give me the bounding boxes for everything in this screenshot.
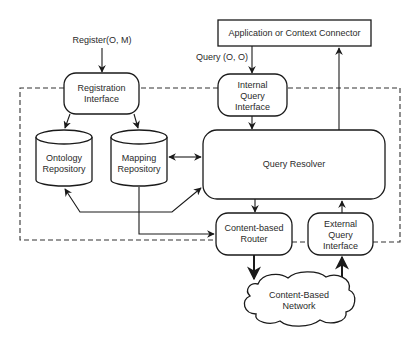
mapping-repository-label-1: Mapping — [122, 153, 157, 163]
registration-interface-label-2: Interface — [84, 94, 119, 104]
external-query-interface-label-1: External — [324, 219, 357, 229]
internal-query-interface-node[interactable]: Internal Query Interface — [218, 74, 287, 116]
application-connector-node[interactable]: Application or Context Connector — [218, 20, 371, 46]
query-resolver-node[interactable]: Query Resolver — [203, 130, 385, 199]
internal-query-interface-label-2: Query — [240, 91, 265, 101]
internal-query-interface-label-3: Interface — [235, 102, 270, 112]
content-based-network-node[interactable]: Content-Based Network — [244, 272, 354, 326]
mapping-repository-label-2: Repository — [117, 164, 161, 174]
ontology-repository-label-1: Ontology — [46, 153, 83, 163]
edge-ontology-resolver — [65, 188, 201, 212]
edge-registration-to-mapping — [134, 114, 138, 128]
query-resolver-label: Query Resolver — [263, 159, 326, 169]
architecture-diagram: Register(O, M) Registration Interface On… — [0, 0, 416, 345]
network-label-2: Network — [282, 301, 316, 311]
content-router-label-1: Content-based — [224, 223, 283, 233]
content-router-node[interactable]: Content-based Router — [216, 213, 292, 255]
query-input-label: Query (O, O) — [196, 52, 248, 62]
application-connector-label: Application or Context Connector — [228, 28, 360, 38]
mapping-repository-node[interactable]: Mapping Repository — [111, 130, 167, 186]
register-input-label: Register(O, M) — [72, 35, 131, 45]
ontology-repository-label-2: Repository — [42, 164, 86, 174]
external-query-interface-label-2: Query — [328, 230, 353, 240]
external-query-interface-node[interactable]: External Query Interface — [308, 213, 373, 255]
registration-interface-node[interactable]: Registration Interface — [64, 73, 139, 114]
ontology-repository-node[interactable]: Ontology Repository — [36, 130, 92, 186]
network-label-1: Content-Based — [269, 290, 329, 300]
internal-query-interface-label-1: Internal — [237, 80, 267, 90]
content-router-label-2: Router — [240, 234, 267, 244]
edge-mapping-to-router — [139, 187, 214, 234]
registration-interface-label-1: Registration — [77, 83, 125, 93]
edge-registration-to-ontology — [65, 114, 70, 128]
external-query-interface-label-3: Interface — [323, 241, 358, 251]
